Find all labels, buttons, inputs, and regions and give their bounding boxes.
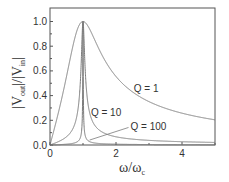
annotation-label: Q = 100 [131, 121, 167, 132]
y-tick-label: 0.6 [33, 65, 47, 76]
y-tick-label: 0.4 [33, 90, 47, 101]
x-axis-label: ω/ωc [119, 160, 145, 177]
annotation-label: Q = 1 [134, 83, 159, 94]
resonance-chart: 0240.00.20.40.60.81.0 Q = 1Q = 10Q = 100… [0, 0, 229, 182]
x-tick-label: 4 [179, 148, 185, 159]
y-tick-label: 0.0 [33, 140, 47, 151]
y-tick-label: 0.2 [33, 115, 47, 126]
axis-ticks: 0240.00.20.40.60.81.0 [33, 16, 215, 159]
y-tick-label: 0.8 [33, 41, 47, 52]
y-tick-label: 1.0 [33, 16, 47, 27]
x-tick-label: 2 [113, 148, 119, 159]
annotation-label: Q = 10 [91, 107, 122, 118]
x-tick-label: 0 [47, 148, 53, 159]
y-axis-label: |Vout|/|Vin| [10, 57, 27, 109]
